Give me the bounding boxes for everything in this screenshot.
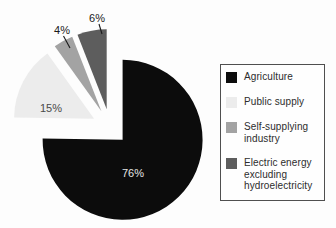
legend-item-self-supplying-industry: Self-supplying industry [226, 121, 321, 144]
legend-swatch-self-supplying-industry [226, 122, 237, 133]
slice-value-label-self-supplying-industry: 4% [54, 24, 70, 36]
pie-chart-figure: 76%15%4%6% Agriculture Public supply Sel… [0, 0, 336, 228]
legend-label-public-supply: Public supply [244, 96, 304, 108]
legend-swatch-electric-energy [226, 158, 237, 169]
legend-label-electric-energy: Electric energy excluding hydroelectrici… [244, 157, 321, 192]
legend-label-agriculture: Agriculture [244, 71, 293, 83]
legend-label-self-supplying-industry: Self-supplying industry [244, 121, 321, 144]
legend-item-electric-energy: Electric energy excluding hydroelectrici… [226, 157, 321, 192]
slice-value-label-agriculture: 76% [122, 167, 144, 179]
legend-swatch-public-supply [226, 97, 237, 108]
legend-swatch-agriculture [226, 72, 237, 83]
slice-value-label-public-supply: 15% [40, 102, 62, 114]
legend-item-agriculture: Agriculture [226, 71, 321, 83]
legend-item-public-supply: Public supply [226, 96, 321, 108]
legend: Agriculture Public supply Self-supplying… [220, 64, 325, 201]
slice-value-label-electric-energy: 6% [89, 12, 105, 24]
